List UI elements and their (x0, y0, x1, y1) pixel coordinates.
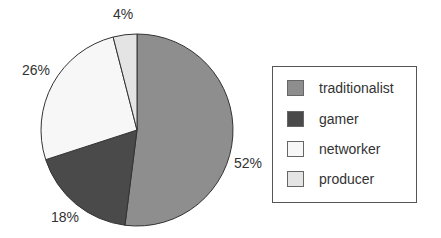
label-traditionalist: 52% (234, 155, 262, 171)
legend: traditionalist gamer networker producer (272, 66, 417, 203)
legend-item-networker: networker (287, 139, 380, 159)
label-gamer: 18% (51, 209, 79, 225)
swatch-networker (287, 141, 304, 157)
legend-label: traditionalist (319, 80, 394, 96)
label-producer: 4% (113, 6, 133, 22)
legend-label: gamer (319, 111, 359, 127)
label-networker: 26% (22, 62, 50, 78)
swatch-producer (287, 171, 304, 187)
legend-label: networker (319, 141, 380, 157)
legend-item-traditionalist: traditionalist (287, 78, 394, 98)
legend-item-gamer: gamer (287, 109, 359, 129)
swatch-gamer (287, 111, 304, 127)
legend-label: producer (319, 171, 374, 187)
swatch-traditionalist (287, 80, 304, 96)
slice-traditionalist (125, 34, 233, 226)
legend-item-producer: producer (287, 169, 374, 189)
